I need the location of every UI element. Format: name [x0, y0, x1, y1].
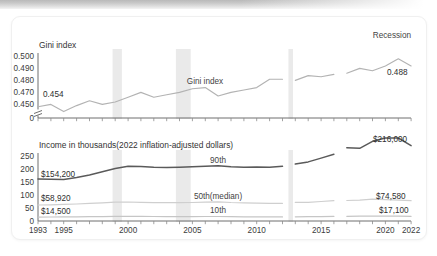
gini-ytick-zero: 0: [29, 114, 34, 123]
income-10th-start-label: $14,500: [41, 207, 71, 216]
gini-ytick-0: 0.500: [14, 52, 35, 61]
income-xtick-2015: 2015: [312, 226, 331, 235]
gini-ytick-2: 0.480: [14, 76, 35, 85]
income-xtick-2010: 2010: [248, 226, 267, 235]
income-xtick-2020: 2020: [376, 226, 395, 235]
recession-bands-bottom: [113, 150, 293, 222]
income-panel: Income in thousands(2022 inflation-adjus…: [20, 135, 420, 235]
income-10th-end-label: $17,100: [379, 206, 409, 215]
income-50th-start-label: $58,920: [41, 194, 71, 203]
income-series-50th-seg1: [38, 202, 283, 205]
income-xtick-2005: 2005: [183, 226, 202, 235]
income-ytick-200: 200: [20, 165, 34, 174]
income-xtick-1995: 1995: [55, 226, 74, 235]
gini-ytick-4: 0.450: [14, 100, 35, 109]
chart-card: Recession Gini index 0.500 0.490 0.480 0…: [11, 16, 427, 240]
gini-panel: Recession Gini index 0.500 0.490 0.480 0…: [14, 31, 412, 123]
toolbar-fade-overlay: [0, 0, 437, 9]
income-ytick-0: 0: [29, 217, 34, 226]
income-ytick-50: 50: [25, 204, 35, 213]
gini-series-segment-2: [295, 74, 334, 80]
gini-axis-title: Gini index: [39, 40, 77, 50]
income-xtick-1993: 1993: [29, 226, 48, 235]
gini-start-value-label: 0.454: [43, 90, 64, 99]
gini-ytick-1: 0.490: [14, 64, 35, 73]
income-series-10th-seg1: [38, 216, 283, 217]
gini-ytick-3: 0.470: [14, 88, 35, 97]
gini-series-inline-label: Gini index: [187, 77, 223, 86]
gini-series-segment-1: [38, 79, 283, 111]
income-series-50th-seg2: [295, 201, 334, 203]
income-ytick-250: 250: [20, 152, 34, 161]
income-90th-start-label: $154,200: [41, 170, 76, 179]
income-xtick-2000: 2000: [119, 226, 138, 235]
income-series-label-90th: 90th: [210, 156, 226, 165]
income-50th-end-label: $74,580: [376, 192, 406, 201]
income-series-90th-seg2: [295, 154, 334, 164]
gini-end-value-label: 0.488: [387, 68, 408, 77]
income-axis-title: Income in thousands(2022 inflation-adjus…: [39, 140, 233, 150]
income-90th-end-label: $216,000: [373, 135, 408, 144]
income-series-label-50th: 50th(median): [194, 192, 243, 201]
chart-figure: Recession Gini index 0.500 0.490 0.480 0…: [12, 17, 426, 239]
income-ytick-150: 150: [20, 178, 34, 187]
recession-legend-label: Recession: [373, 31, 412, 40]
income-xtick-2022: 2022: [402, 226, 421, 235]
income-ytick-100: 100: [20, 191, 34, 200]
income-series-label-10th: 10th: [210, 206, 226, 215]
